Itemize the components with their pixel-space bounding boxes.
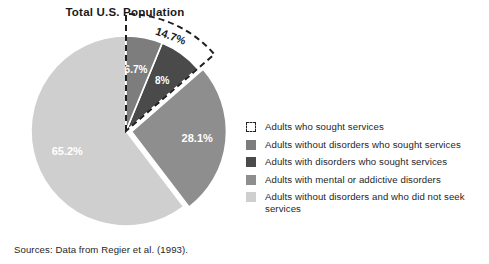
- dashed-outline-swatch-icon: [246, 122, 256, 132]
- solid-swatch-icon: [246, 157, 256, 167]
- slice-label-6-7: 6.7%: [125, 64, 148, 75]
- source-note: Sources: Data from Regier et al. (1993).: [14, 244, 188, 255]
- legend-item-with-disorders-sought-services[interactable]: Adults with disorders who sought service…: [246, 156, 486, 168]
- pie-chart-svg: 6.7% 8% 28.1% 65.2% 14.7%: [0, 0, 250, 240]
- legend-item-label: Adults without disorders who sought serv…: [265, 139, 461, 151]
- legend-item-label: Adults with mental or addictive disorder…: [265, 174, 441, 186]
- slice-label-28-1: 28.1%: [182, 132, 213, 144]
- slice-label-8: 8%: [155, 75, 170, 86]
- figure-root: Total U.S. Population 6.7% 8% 28.1% 65.2…: [0, 0, 489, 264]
- legend-item-label: Adults with disorders who sought service…: [265, 156, 447, 168]
- legend-item-adults-who-sought-services[interactable]: Adults who sought services: [246, 121, 486, 133]
- legend-item-mental-or-addictive-disorders[interactable]: Adults with mental or addictive disorder…: [246, 174, 486, 186]
- solid-swatch-icon: [246, 192, 256, 202]
- solid-swatch-icon: [246, 140, 256, 150]
- legend-item-without-disorders-no-services[interactable]: Adults without disorders and who did not…: [246, 191, 486, 214]
- legend-item-label: Adults who sought services: [265, 121, 384, 133]
- pie-chart: 6.7% 8% 28.1% 65.2% 14.7%: [0, 0, 250, 240]
- slice-label-65-2: 65.2%: [52, 145, 83, 157]
- solid-swatch-icon: [246, 175, 256, 185]
- legend-item-label: Adults without disorders and who did not…: [265, 191, 486, 214]
- legend: Adults who sought services Adults withou…: [246, 121, 486, 214]
- legend-item-without-disorders-sought-services[interactable]: Adults without disorders who sought serv…: [246, 139, 486, 151]
